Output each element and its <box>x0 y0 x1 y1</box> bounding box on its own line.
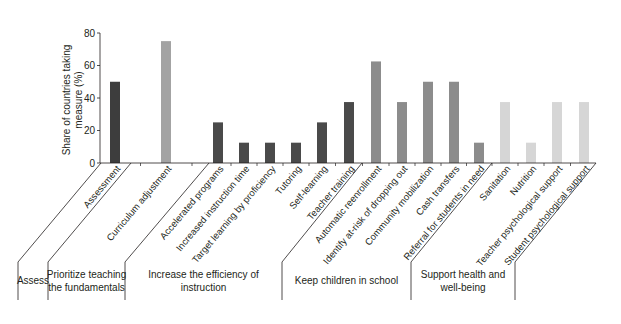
bar <box>110 82 120 163</box>
bar <box>579 102 589 163</box>
bar <box>317 122 327 163</box>
bars <box>110 41 589 163</box>
bar <box>344 102 354 163</box>
bar <box>161 41 171 163</box>
bar <box>474 143 484 163</box>
y-axis-title: Share of countries takingmeasure (%) <box>61 45 84 156</box>
bar <box>291 143 301 163</box>
bar-chart: 020406080 Share of countries takingmeasu… <box>0 0 621 324</box>
bar <box>397 102 407 163</box>
category-labels: AssessmentCurriculum adjustmentAccelerat… <box>81 163 592 268</box>
group-label: Prioritize teachingthe fundamentals <box>47 269 126 293</box>
y-tick-label: 60 <box>84 60 96 71</box>
category-label: Assessment <box>81 163 123 210</box>
y-tick-label: 0 <box>89 158 95 169</box>
bar <box>500 102 510 163</box>
group-label: Assess <box>17 275 49 286</box>
group-label: Keep children in school <box>295 275 398 286</box>
group-label: Increase the efficiency ofinstruction <box>148 269 259 293</box>
bar <box>552 102 562 163</box>
bar <box>239 143 249 163</box>
group-label: Support health andwell-being <box>421 269 506 293</box>
bar <box>449 82 459 163</box>
group-labels: AssessPrioritize teachingthe fundamental… <box>17 269 505 293</box>
y-tick-label: 20 <box>84 125 96 136</box>
bar <box>526 143 536 163</box>
bar <box>423 82 433 163</box>
bar <box>265 143 275 163</box>
y-axis: 020406080 <box>84 28 100 169</box>
y-tick-label: 40 <box>84 93 96 104</box>
bar <box>213 122 223 163</box>
y-tick-label: 80 <box>84 28 96 39</box>
bar <box>371 61 381 163</box>
y-axis-label: Share of countries takingmeasure (%) <box>61 45 84 156</box>
